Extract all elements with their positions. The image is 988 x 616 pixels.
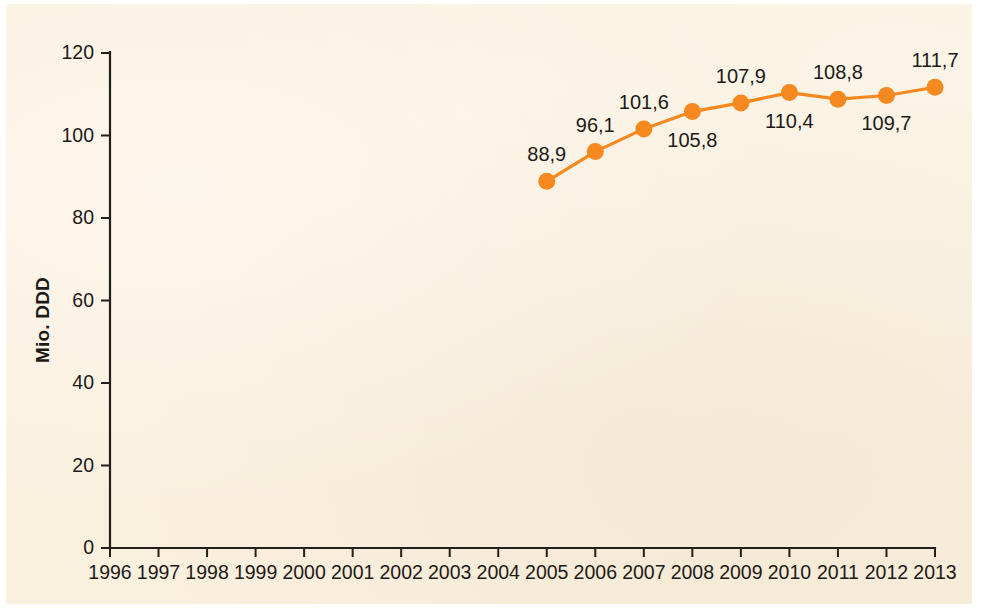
data-point-label: 111,7 (911, 49, 958, 71)
x-axis: 1996199719981999200020012002200320042005… (88, 548, 956, 583)
data-point-marker[interactable] (781, 84, 798, 101)
x-tick-label: 2007 (622, 561, 665, 583)
data-point-label: 101,6 (619, 91, 669, 113)
y-tick-label: 20 (72, 454, 94, 476)
y-tick-label: 80 (72, 206, 94, 228)
data-point-marker[interactable] (538, 173, 555, 190)
chart-figure: Mio. DDD 020406080100120 199619971998199… (0, 0, 988, 616)
data-point-label: 109,7 (861, 112, 911, 134)
data-point-label: 110,4 (765, 110, 814, 132)
x-tick-label: 2001 (331, 561, 374, 583)
y-tick-label: 60 (72, 289, 94, 311)
x-tick-label: 1998 (185, 561, 228, 583)
x-tick-label: 1999 (234, 561, 277, 583)
x-tick-label: 2011 (817, 561, 859, 583)
data-point-label: 107,9 (716, 65, 766, 87)
y-tick-label: 100 (61, 124, 94, 146)
x-tick-label: 2004 (477, 561, 521, 583)
data-point-label: 105,8 (667, 129, 717, 151)
data-point-marker[interactable] (587, 143, 604, 160)
data-point-marker[interactable] (878, 87, 895, 104)
data-point-label: 108,8 (813, 61, 863, 83)
data-point-label: 88,9 (527, 143, 566, 165)
y-axis: 020406080100120 (61, 41, 110, 558)
data-point-marker[interactable] (684, 103, 701, 120)
x-tick-label: 2012 (865, 561, 908, 583)
x-tick-label: 2006 (574, 561, 617, 583)
y-tick-label: 0 (83, 536, 94, 558)
data-point-label: 96,1 (576, 114, 615, 136)
data-point-marker[interactable] (732, 94, 749, 111)
y-axis-title: Mio. DDD (32, 277, 53, 363)
x-tick-label: 1997 (137, 561, 180, 583)
x-tick-label: 2010 (768, 561, 812, 583)
data-point-marker[interactable] (635, 120, 652, 137)
x-tick-label: 2002 (379, 561, 422, 583)
data-point-marker[interactable] (927, 79, 944, 96)
x-tick-label: 2008 (671, 561, 714, 583)
x-tick-label: 2013 (913, 561, 956, 583)
x-tick-label: 2009 (719, 561, 762, 583)
line-chart-plot: Mio. DDD 020406080100120 199619971998199… (0, 0, 988, 616)
x-tick-label: 1996 (88, 561, 131, 583)
x-tick-label: 2005 (525, 561, 569, 583)
y-tick-label: 120 (61, 41, 94, 63)
x-tick-label: 2003 (428, 561, 471, 583)
y-axis-title-text: Mio. DDD (32, 277, 53, 363)
x-tick-label: 2000 (282, 561, 326, 583)
y-tick-label: 40 (72, 371, 94, 393)
data-point-marker[interactable] (829, 91, 846, 108)
